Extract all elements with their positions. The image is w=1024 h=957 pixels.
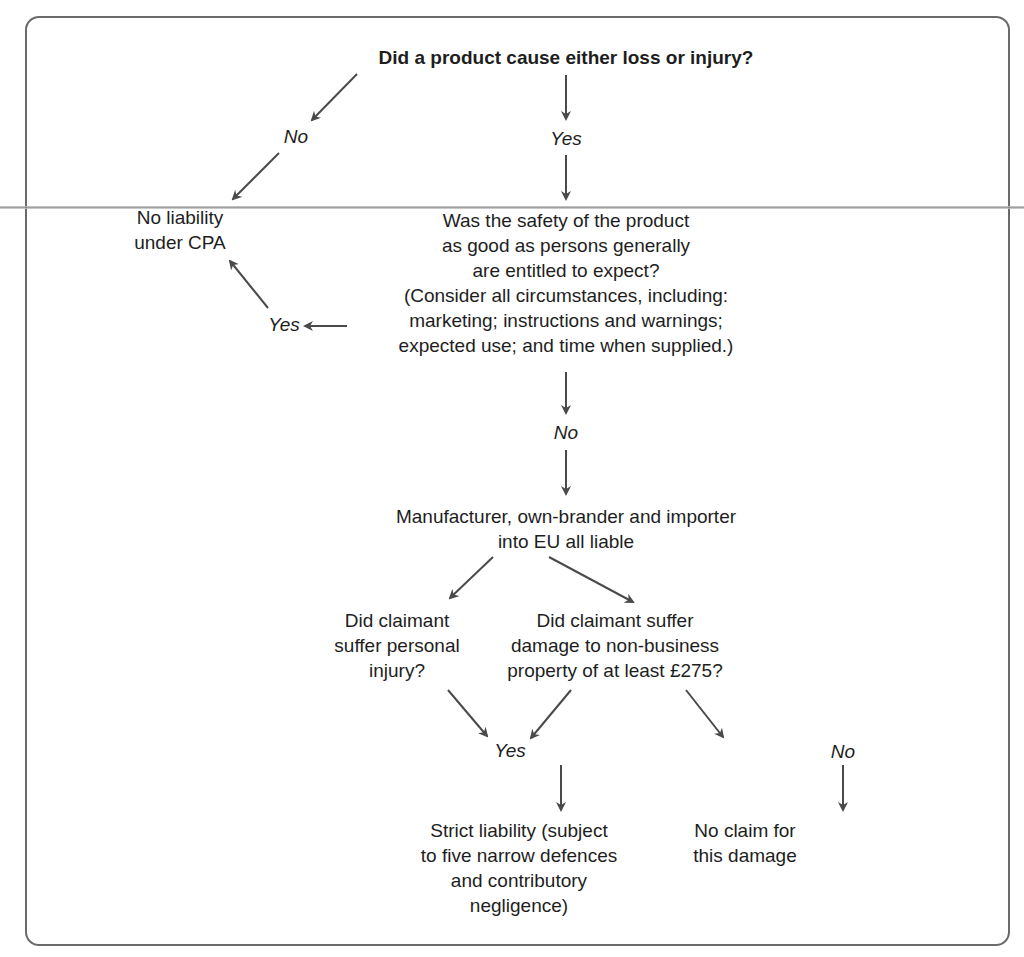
node-personal-injury-question: Did claimant suffer personal injury? — [334, 608, 459, 683]
node-liable-parties: Manufacturer, own-brander and importer i… — [396, 504, 736, 554]
node-no-liability: No liability under CPA — [134, 205, 226, 255]
node-start-question: Did a product cause either loss or injur… — [379, 45, 754, 70]
label-start-no: No — [284, 126, 308, 148]
flow-arrows — [0, 0, 1024, 957]
label-safety-no: No — [554, 422, 578, 444]
safety-question-line-1: Was the safety of the product — [399, 208, 734, 233]
injury-question-line-1: Did claimant — [334, 608, 459, 633]
no-liability-line-1: No liability — [134, 205, 226, 230]
strict-liability-line-3: and contributory — [421, 868, 617, 893]
node-property-damage-question: Did claimant suffer damage to non-busine… — [507, 608, 722, 683]
property-question-line-1: Did claimant suffer — [507, 608, 722, 633]
arrow-yes-to-no-liability — [230, 261, 268, 308]
node-safety-question: Was the safety of the product as good as… — [399, 208, 734, 358]
arrow-property-to-no — [686, 690, 723, 737]
no-claim-line-2: this damage — [693, 843, 797, 868]
node-no-claim: No claim for this damage — [693, 818, 797, 868]
safety-question-line-5: marketing; instructions and warnings; — [399, 308, 734, 333]
label-damage-no: No — [831, 741, 855, 763]
property-question-line-3: property of at least £275? — [507, 658, 722, 683]
arrow-property-to-yes — [531, 690, 571, 738]
safety-question-line-3: are entitled to expect? — [399, 258, 734, 283]
label-start-yes: Yes — [550, 128, 582, 150]
safety-question-line-4: (Consider all circumstances, including: — [399, 283, 734, 308]
safety-question-line-6: expected use; and time when supplied.) — [399, 333, 734, 358]
label-safety-yes: Yes — [268, 314, 300, 336]
strict-liability-line-4: negligence) — [421, 893, 617, 918]
injury-question-line-2: suffer personal — [334, 633, 459, 658]
strict-liability-line-1: Strict liability (subject — [421, 818, 617, 843]
start-question-text: Did a product cause either loss or injur… — [379, 47, 754, 68]
arrow-liable-to-property — [549, 557, 633, 602]
safety-question-line-2: as good as persons generally — [399, 233, 734, 258]
injury-question-line-3: injury? — [334, 658, 459, 683]
arrow-injury-to-yes — [448, 690, 487, 736]
property-question-line-2: damage to non-business — [507, 633, 722, 658]
liable-parties-line-2: into EU all liable — [396, 529, 736, 554]
label-damage-yes: Yes — [494, 740, 526, 762]
liable-parties-line-1: Manufacturer, own-brander and importer — [396, 504, 736, 529]
arrow-liable-to-injury — [450, 557, 493, 598]
strict-liability-line-2: to five narrow defences — [421, 843, 617, 868]
arrow-no-to-no-liability — [233, 153, 279, 199]
no-claim-line-1: No claim for — [693, 818, 797, 843]
arrow-start-to-no — [312, 74, 357, 120]
node-strict-liability: Strict liability (subject to five narrow… — [421, 818, 617, 918]
no-liability-line-2: under CPA — [134, 230, 226, 255]
